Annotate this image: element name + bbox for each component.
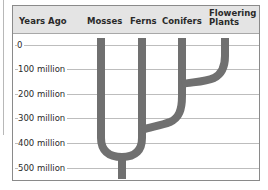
- evolution-tree: [0, 0, 268, 190]
- ferns-branch: [122, 38, 142, 157]
- mosses-branch: [101, 38, 122, 157]
- flowering-plants-branch: [182, 38, 225, 84]
- conifers-branch: [142, 38, 182, 130]
